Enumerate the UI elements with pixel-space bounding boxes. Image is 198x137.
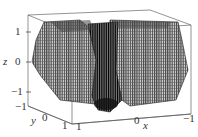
surface-mesh: [32, 20, 188, 112]
y-tick-1: 1: [62, 119, 68, 131]
z-tick-1: 1: [15, 25, 21, 37]
y-tick-0: 0: [42, 111, 48, 123]
y-tick-minus-1: −1: [15, 100, 27, 112]
x-tick-minus-1: −1: [183, 112, 195, 124]
z-axis-label: z: [2, 55, 8, 67]
x-tick-1: 1: [76, 120, 82, 132]
x-tick-0: 0: [134, 114, 140, 126]
surface-plot: 1 0 −1 z −1 0 1 y 1 0 −1 x: [0, 0, 198, 137]
z-tick-minus-1: −1: [11, 85, 23, 97]
y-axis-label: y: [30, 114, 36, 126]
z-tick-0: 0: [15, 55, 21, 67]
z-axis: [26, 32, 31, 92]
x-axis-label: x: [142, 119, 148, 131]
